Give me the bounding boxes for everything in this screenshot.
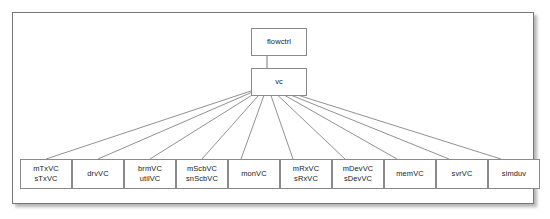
node-mTxVC[interactable]: mTxVC sTxVC [20,159,72,189]
node-mDevVC-label-1: mDevVC [343,164,374,174]
edge-brmVC [150,87,265,159]
node-vc-label: vc [275,77,283,87]
node-drvVC-label-1: drvVC [87,169,108,179]
node-svrVC[interactable]: svrVC [436,159,488,189]
node-monVC-label-1: monVC [241,169,267,179]
edge-mTxVC [46,87,263,159]
node-mScbVC[interactable]: mScbVC snScbVC [176,159,228,189]
node-mTxVC-label-1: mTxVC [33,164,59,174]
edge-drvVC [98,87,264,159]
edge-simduv [272,87,501,159]
node-monVC[interactable]: monVC [228,159,280,189]
node-brmVC-label-1: brmVC [138,164,162,174]
diagram-canvas: flowctrl vc mTxVC sTxVC drvVC brmVC util… [0,0,550,219]
edge-mScbVC [202,87,266,159]
node-drvVC[interactable]: drvVC [72,159,124,189]
node-brmVC[interactable]: brmVC utilVC [124,159,176,189]
node-memVC[interactable]: memVC [384,159,436,189]
node-mRxVC[interactable]: mRxVC sRxVC [280,159,332,189]
edge-svrVC [271,87,449,159]
node-flowctrl-label: flowctrl [267,37,291,47]
node-memVC-label-1: memVC [396,169,424,179]
node-mTxVC-label-2: sTxVC [35,174,58,184]
node-vc[interactable]: vc [251,68,307,96]
node-mScbVC-label-1: mScbVC [187,164,217,174]
node-simduv[interactable]: simduv [488,159,540,189]
node-simduv-label-1: simduv [502,169,526,179]
node-svrVC-label-1: svrVC [452,169,473,179]
edge-fan-to-vc [46,87,501,159]
node-flowctrl[interactable]: flowctrl [251,28,307,56]
node-mDevVC-label-2: sDevVC [344,174,372,184]
diagram-frame: flowctrl vc mTxVC sTxVC drvVC brmVC util… [12,12,534,204]
node-brmVC-label-2: utilVC [140,174,161,184]
node-mScbVC-label-2: snScbVC [186,174,218,184]
node-mDevVC[interactable]: mDevVC sDevVC [332,159,384,189]
edge-monVC [241,87,267,159]
node-mRxVC-label-2: sRxVC [294,174,318,184]
node-mRxVC-label-1: mRxVC [293,164,319,174]
